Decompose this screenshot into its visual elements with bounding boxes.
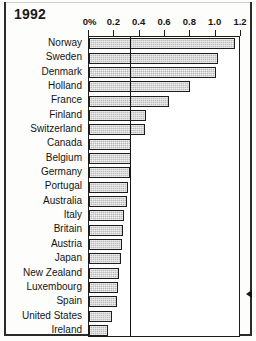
category-label: Germany xyxy=(0,165,86,179)
x-tick-label: 0.2 xyxy=(107,16,120,27)
bar xyxy=(89,325,108,336)
category-label: Italy xyxy=(0,208,86,222)
bar-row xyxy=(89,223,239,237)
bar-row xyxy=(89,109,239,123)
category-label: Spain xyxy=(0,294,86,308)
left-triangle-icon xyxy=(246,290,252,298)
bar-row xyxy=(89,137,239,151)
category-axis-labels: NorwaySwedenDenmarkHollandFranceFinlandS… xyxy=(0,36,86,337)
category-label: Austria xyxy=(0,237,86,251)
x-tick-label: 1.0 xyxy=(208,16,221,27)
category-label: Britain xyxy=(0,222,86,236)
bar xyxy=(89,124,145,135)
category-label: New Zealand xyxy=(0,266,86,280)
bar xyxy=(89,253,121,264)
bar xyxy=(89,239,122,250)
bar-row xyxy=(89,281,239,295)
bar xyxy=(89,110,146,121)
plot-area xyxy=(88,36,240,337)
bar-row xyxy=(89,166,239,180)
bar-row xyxy=(89,37,239,51)
bar-row xyxy=(89,123,239,137)
bar xyxy=(89,81,190,92)
x-tick-label: 1.2 xyxy=(233,16,246,27)
bar xyxy=(89,167,130,178)
x-tick-label: 0.6 xyxy=(157,16,170,27)
category-label: Switzerland xyxy=(0,122,86,136)
category-label: France xyxy=(0,93,86,107)
category-label: Sweden xyxy=(0,50,86,64)
x-tick-label: 0.8 xyxy=(183,16,196,27)
category-label: Belgium xyxy=(0,151,86,165)
bar xyxy=(89,282,118,293)
chart-figure: 1992 0%0.20.40.60.81.01.2 NorwaySwedenDe… xyxy=(0,0,256,341)
bar-row xyxy=(89,152,239,166)
bar xyxy=(89,210,124,221)
bar xyxy=(89,182,128,193)
bar xyxy=(89,38,235,49)
bar-row xyxy=(89,195,239,209)
bar xyxy=(89,296,117,307)
category-label: Ireland xyxy=(0,323,86,337)
bar xyxy=(89,196,127,207)
category-label: Norway xyxy=(0,36,86,50)
category-label: Luxembourg xyxy=(0,280,86,294)
bar-row xyxy=(89,295,239,309)
bar xyxy=(89,311,112,322)
bar xyxy=(89,53,218,64)
bar xyxy=(89,67,216,78)
bar xyxy=(89,153,131,164)
figure-border-right xyxy=(250,2,252,336)
figure-border-top xyxy=(4,2,252,3)
category-label: Portugal xyxy=(0,179,86,193)
x-tick-mark xyxy=(240,30,241,36)
bar xyxy=(89,268,119,279)
oecd-average-annotation: OECD average xyxy=(246,289,256,300)
bar-row xyxy=(89,80,239,94)
category-label: Denmark xyxy=(0,65,86,79)
category-label: Holland xyxy=(0,79,86,93)
bar-row xyxy=(89,180,239,194)
x-tick-label: 0.4 xyxy=(132,16,145,27)
bar-row xyxy=(89,310,239,324)
bar-row xyxy=(89,238,239,252)
bar-row xyxy=(89,252,239,266)
oecd-average-reference-line xyxy=(130,36,132,337)
category-label: Japan xyxy=(0,251,86,265)
bar xyxy=(89,225,123,236)
x-tick-label: 0% xyxy=(83,16,97,27)
category-label: United States xyxy=(0,309,86,323)
bar xyxy=(89,139,131,150)
bar-row xyxy=(89,94,239,108)
x-axis-tick-labels: 0%0.20.40.60.81.01.2 xyxy=(0,16,256,30)
category-label: Finland xyxy=(0,108,86,122)
bar-row xyxy=(89,324,239,338)
bar-row xyxy=(89,66,239,80)
bars-container xyxy=(89,37,239,336)
bar-row xyxy=(89,209,239,223)
category-label: Canada xyxy=(0,136,86,150)
category-label: Australia xyxy=(0,194,86,208)
bar-row xyxy=(89,267,239,281)
bar-row xyxy=(89,51,239,65)
